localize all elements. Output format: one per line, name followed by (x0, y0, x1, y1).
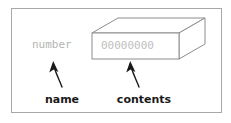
contents-value-text: 00000000 (101, 39, 175, 53)
callout-label-contents: contents (101, 92, 187, 107)
contents-arrow-tail (132, 68, 140, 87)
name-pointer-arrow (47, 61, 73, 91)
contents-arrow-head (126, 61, 135, 73)
contents-pointer-arrow (124, 61, 150, 91)
name-arrow-tail (55, 68, 63, 87)
variable-name-text: number (32, 38, 88, 52)
callout-label-name: name (27, 92, 97, 107)
name-arrow-head (49, 61, 58, 73)
variable-diagram: number 00000000 name contents (0, 0, 231, 123)
memory-box-illustration (86, 12, 212, 64)
